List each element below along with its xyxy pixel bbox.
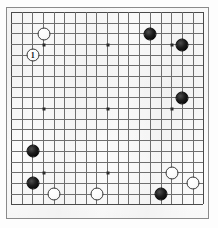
stone-white-j2[interactable]: [90, 188, 103, 201]
stone-black-o2[interactable]: [155, 188, 168, 201]
stone-white-e2[interactable]: [48, 188, 61, 201]
go-diagram-root: 1: [0, 0, 218, 228]
stone-white-move-1[interactable]: 1: [26, 49, 39, 62]
stone-black-c6[interactable]: [26, 145, 39, 158]
stone-white-d17[interactable]: [37, 27, 50, 40]
stone-white-q4[interactable]: [165, 166, 178, 179]
go-board[interactable]: 1: [6, 7, 209, 219]
stone-white-move-1-label: 1: [27, 50, 38, 61]
stone-black-c3[interactable]: [26, 177, 39, 190]
stone-black-q16[interactable]: [176, 38, 189, 51]
board-stones[interactable]: 1: [7, 8, 208, 218]
stone-white-s3[interactable]: [187, 177, 200, 190]
stone-black-n17[interactable]: [144, 27, 157, 40]
stone-black-q11[interactable]: [176, 91, 189, 104]
